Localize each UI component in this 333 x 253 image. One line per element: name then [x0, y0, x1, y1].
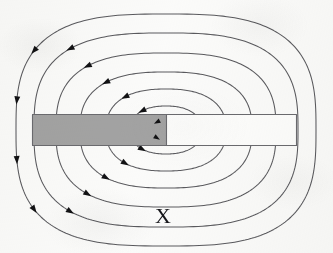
x-point-label: X: [155, 205, 171, 227]
field-line-figure: X: [0, 0, 333, 253]
